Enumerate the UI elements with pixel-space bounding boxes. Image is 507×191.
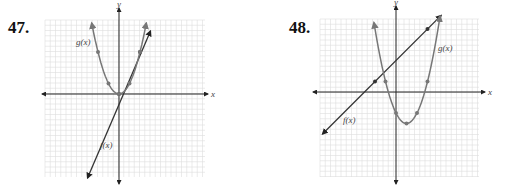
x-axis-label: x xyxy=(210,89,215,99)
data-point xyxy=(415,111,419,115)
data-point xyxy=(138,50,142,54)
g-label: g(x) xyxy=(438,43,453,53)
chart-48: xyf(x)g(x) xyxy=(313,0,492,184)
data-point xyxy=(384,80,388,84)
g-label: g(x) xyxy=(76,37,91,47)
chart-47: xyf(x)g(x) xyxy=(42,0,215,184)
data-point xyxy=(394,111,398,115)
data-point xyxy=(96,50,100,54)
y-axis-label: y xyxy=(393,0,398,7)
f-label: f(x) xyxy=(343,115,356,125)
f-line xyxy=(323,15,442,134)
data-point xyxy=(426,27,430,31)
chart-47: xyf(x)g(x)xyf(x)g(x) xyxy=(0,0,507,191)
data-point xyxy=(405,122,409,126)
x-axis-label: x xyxy=(487,87,492,97)
data-point xyxy=(426,80,430,84)
y-axis-label: y xyxy=(116,0,121,9)
data-point xyxy=(107,82,111,86)
f-label: f(x) xyxy=(100,140,113,150)
data-point xyxy=(128,82,132,86)
data-point xyxy=(373,80,377,84)
data-point xyxy=(117,92,121,96)
